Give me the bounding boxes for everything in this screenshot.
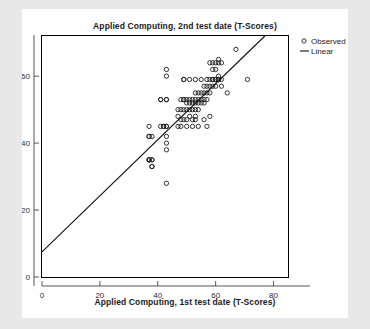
x-axis-label: Applied Computing, 1st test date (T-Scor… bbox=[22, 297, 348, 307]
data-point bbox=[147, 124, 151, 128]
data-point bbox=[164, 67, 168, 71]
data-point bbox=[196, 124, 200, 128]
data-point bbox=[150, 158, 154, 162]
data-point bbox=[190, 124, 194, 128]
data-point bbox=[150, 164, 154, 168]
y-tick-label: 0 bbox=[26, 273, 31, 282]
legend-linear-label: Linear bbox=[311, 47, 334, 56]
y-axis-ticks: 0204060 bbox=[22, 35, 39, 286]
data-point bbox=[164, 134, 168, 138]
chart-legend: Observed Linear bbox=[300, 37, 346, 56]
scatter-plot: 020406080 0204060 Observed Linear bbox=[22, 9, 348, 318]
linear-fit-line bbox=[42, 36, 265, 252]
data-point bbox=[196, 107, 200, 111]
data-point bbox=[179, 124, 183, 128]
data-point bbox=[193, 77, 197, 81]
data-point bbox=[219, 84, 223, 88]
data-point bbox=[164, 74, 168, 78]
plot-frame bbox=[42, 36, 289, 278]
data-point bbox=[202, 118, 206, 122]
data-point bbox=[164, 97, 168, 101]
legend-observed-label: Observed bbox=[311, 37, 346, 46]
data-point bbox=[214, 67, 218, 71]
data-point bbox=[187, 77, 191, 81]
observed-points bbox=[147, 47, 250, 185]
data-point bbox=[219, 61, 223, 65]
data-point bbox=[150, 134, 154, 138]
data-point bbox=[208, 114, 212, 118]
chart-card: Applied Computing, 2nd test date (T-Scor… bbox=[22, 9, 348, 318]
data-point bbox=[159, 97, 163, 101]
data-point bbox=[205, 124, 209, 128]
data-point bbox=[234, 47, 238, 51]
data-point bbox=[245, 77, 249, 81]
data-point bbox=[225, 91, 229, 95]
y-tick-label: 60 bbox=[22, 72, 31, 81]
data-point bbox=[164, 181, 168, 185]
y-tick-label: 20 bbox=[22, 206, 31, 215]
figure-root: Applied Computing, 2nd test date (T-Scor… bbox=[0, 0, 370, 329]
data-point bbox=[205, 97, 209, 101]
data-point bbox=[185, 124, 189, 128]
data-point bbox=[164, 148, 168, 152]
data-point bbox=[199, 77, 203, 81]
data-point bbox=[164, 124, 168, 128]
data-point bbox=[164, 141, 168, 145]
data-point bbox=[182, 77, 186, 81]
legend-observed-marker bbox=[302, 39, 306, 43]
y-tick-label: 40 bbox=[22, 139, 31, 148]
